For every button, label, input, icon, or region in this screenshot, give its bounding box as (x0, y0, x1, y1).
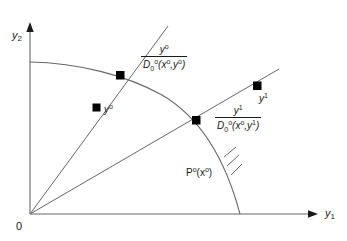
marker-y1 (253, 82, 262, 91)
production-frontier-curve (30, 62, 240, 214)
point-label-y1: y1 (259, 92, 268, 104)
projection-label-y0: yo D0o(xo,yo) (141, 43, 187, 72)
diagram-canvas (0, 0, 347, 241)
projection-label-y1-numerator: y1 (215, 104, 261, 117)
y1-axis-label-subscript: 1 (331, 212, 335, 221)
production-set-label-args: (x (197, 167, 205, 178)
point-label-y0-sup: o (109, 103, 113, 110)
y2-axis-arrowhead (26, 22, 33, 32)
projection-label-y0-numerator: yo (141, 43, 187, 56)
marker-projection-y1 (192, 116, 201, 125)
proj-y1-den-args-end: ) (256, 120, 259, 131)
proj-y1-den-sub: 0 (224, 126, 228, 133)
proj-y0-num-sup: o (165, 43, 169, 50)
y2-axis-label-subscript: 2 (18, 34, 22, 43)
y1-axis-arrowhead (308, 210, 318, 217)
marker-projection-y0 (116, 71, 125, 80)
proj-y0-den-args-end: ) (182, 59, 185, 70)
projection-label-y1: y1 D0o(xo,y1) (215, 104, 261, 133)
y1-axis-label: y1 (325, 208, 335, 221)
production-set-label: Po(xo) (186, 166, 212, 178)
point-label-y1-sup: 1 (264, 92, 268, 99)
marker-y0 (93, 104, 101, 112)
projection-label-y1-denominator: D0o(xo,y1) (215, 118, 261, 133)
production-set-label-args-end: ) (209, 167, 212, 178)
output-distance-function-figure: y2 y1 0 yo y1 yo D0o(xo,yo) y1 D0o(xo,y1… (0, 0, 347, 241)
point-label-y0: yo (104, 103, 113, 115)
proj-y1-num-sup: 1 (239, 104, 243, 111)
proj-y0-den-args-mid: ,y (170, 59, 178, 70)
proj-y0-den-sub: 0 (150, 65, 154, 72)
production-set-label-base: P (186, 167, 193, 178)
projection-label-y0-denominator: D0o(xo,yo) (141, 57, 187, 72)
proj-y1-den-args-mid: ,y (244, 120, 252, 131)
frontier-hatch-marks (224, 147, 242, 175)
origin-label: 0 (16, 221, 22, 232)
y2-axis-label: y2 (12, 30, 22, 43)
